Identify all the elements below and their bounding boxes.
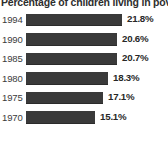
row-category-label: 1980 — [2, 73, 24, 84]
row-bar — [26, 53, 117, 66]
row-value-label: 17.1% — [108, 91, 134, 102]
chart-row: 198018.3% — [0, 70, 168, 90]
row-category-label: 1985 — [2, 53, 24, 64]
row-bar — [26, 72, 108, 85]
chart-plot-area: 199421.8%199020.6%198520.7%198018.3%1975… — [0, 11, 168, 129]
row-bar — [26, 33, 117, 46]
row-category-label: 1994 — [2, 14, 24, 25]
row-bar-track — [26, 92, 168, 105]
row-bar — [26, 111, 95, 124]
row-value-label: 15.1% — [100, 111, 126, 122]
row-value-label: 18.3% — [113, 72, 139, 83]
row-value-label: 20.7% — [122, 52, 148, 63]
row-category-label: 1970 — [2, 112, 24, 123]
row-value-label: 20.6% — [122, 33, 148, 44]
chart-row: 199020.6% — [0, 31, 168, 51]
row-bar-track — [26, 111, 168, 124]
row-bar-track — [26, 72, 168, 85]
row-category-label: 1990 — [2, 34, 24, 45]
row-bar — [26, 92, 103, 105]
row-category-label: 1975 — [2, 92, 24, 103]
chart-row: 197517.1% — [0, 89, 168, 109]
chart-title: Percentage of children living in poverty — [1, 0, 168, 8]
poverty-bar-chart: Percentage of children living in poverty… — [0, 0, 168, 147]
chart-row: 198520.7% — [0, 50, 168, 70]
chart-title-container: Percentage of children living in poverty — [0, 0, 168, 10]
row-value-label: 21.8% — [127, 13, 153, 24]
chart-row: 199421.8% — [0, 11, 168, 31]
row-bar — [26, 14, 122, 27]
chart-row: 197015.1% — [0, 109, 168, 129]
